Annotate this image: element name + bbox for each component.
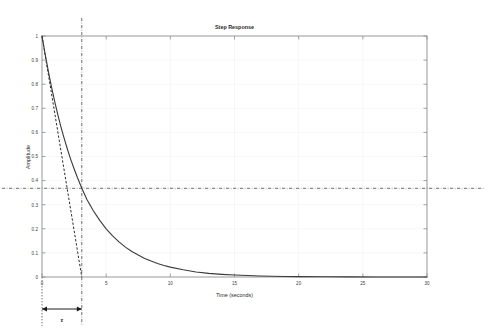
y-tick-label: 0.9 xyxy=(32,58,39,63)
x-tick-label: 10 xyxy=(168,281,174,286)
y-tick-label: 0.8 xyxy=(32,82,39,87)
x-tick-label: 30 xyxy=(424,281,430,286)
x-tick-label: 25 xyxy=(360,281,366,286)
y-axis-label: Amplitude xyxy=(25,145,31,169)
y-tick-label: 0.6 xyxy=(32,130,39,135)
x-tick-label: 5 xyxy=(105,281,108,286)
y-tick-label: 0.4 xyxy=(32,178,39,183)
page-title: Step Response xyxy=(215,24,254,30)
y-tick-label: 0 xyxy=(35,275,38,280)
x-tick-label: 20 xyxy=(296,281,302,286)
x-tick-label: 15 xyxy=(232,281,238,286)
x-axis-label: Time (seconds) xyxy=(216,292,253,298)
y-tick-label: 0.1 xyxy=(32,251,39,256)
y-tick-label: 0.7 xyxy=(32,106,39,111)
y-tick-label: 0.2 xyxy=(32,227,39,232)
chart-canvas: 051015202530 00.10.20.30.40.50.60.70.80.… xyxy=(0,0,487,331)
y-tick-label: 1 xyxy=(35,34,38,39)
step-response-figure: 051015202530 00.10.20.30.40.50.60.70.80.… xyxy=(0,0,487,331)
y-tick-label: 0.5 xyxy=(32,154,39,159)
y-tick-label: 0.3 xyxy=(32,203,39,208)
